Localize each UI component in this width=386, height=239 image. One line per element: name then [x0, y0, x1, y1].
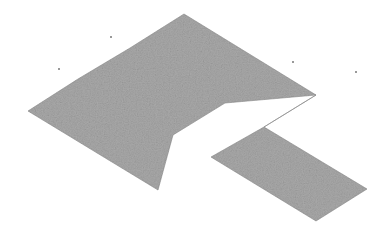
polygon-group — [28, 14, 367, 221]
image-canvas — [0, 0, 386, 239]
isometric-polygon-figure — [0, 0, 386, 239]
polygon-silhouette — [28, 14, 367, 221]
